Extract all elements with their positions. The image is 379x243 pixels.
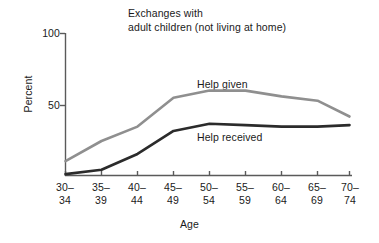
chart-figure: Exchanges withadult children (not living…: [0, 0, 379, 243]
plot-area: [0, 0, 379, 243]
series-line-help-received: [66, 124, 350, 174]
